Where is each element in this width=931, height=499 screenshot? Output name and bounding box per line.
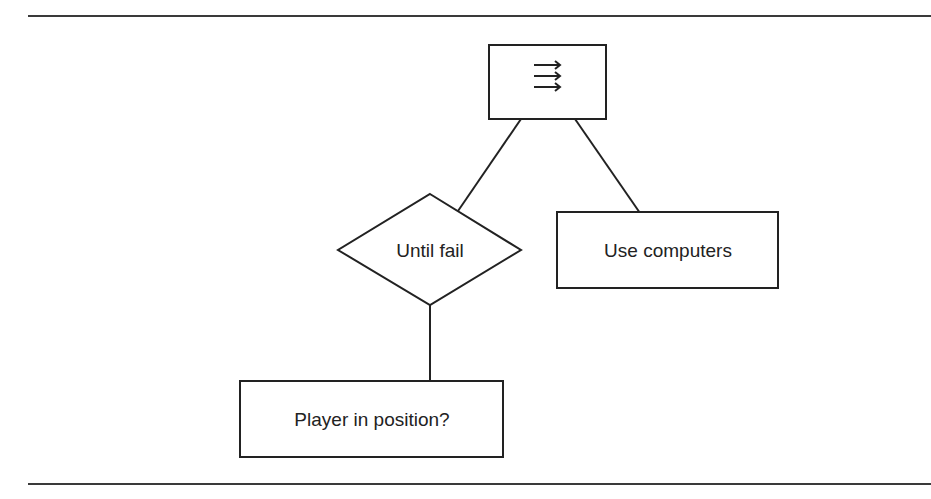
edge-sequence-to-use-computers: [575, 119, 640, 213]
sequence-arrows-icon: [534, 61, 560, 91]
edge-sequence-to-until-fail: [458, 119, 521, 211]
player-in-position-label: Player in position?: [240, 410, 504, 429]
until-fail-label: Until fail: [338, 241, 522, 260]
sequence-node: [489, 45, 606, 119]
use-computers-label: Use computers: [557, 241, 779, 260]
